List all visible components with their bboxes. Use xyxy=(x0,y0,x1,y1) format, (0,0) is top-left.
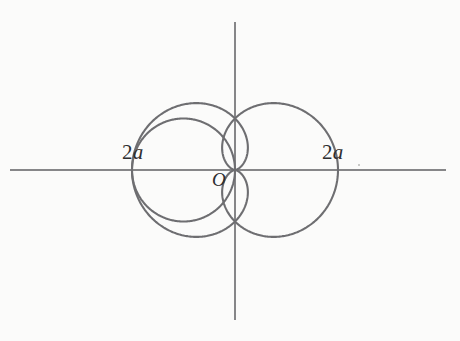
label-left-extent: 2a xyxy=(122,142,144,163)
cardioid-figure: 2a 2a O xyxy=(0,0,460,341)
label-right-extent-number: 2 xyxy=(322,140,333,164)
polar-plot-canvas xyxy=(0,0,460,341)
label-origin: O xyxy=(212,170,226,189)
label-left-extent-symbol: a xyxy=(133,140,144,164)
label-left-extent-number: 2 xyxy=(122,140,133,164)
label-right-extent-symbol: a xyxy=(333,140,344,164)
label-right-extent: 2a xyxy=(322,142,344,163)
paper-speck xyxy=(358,164,360,166)
